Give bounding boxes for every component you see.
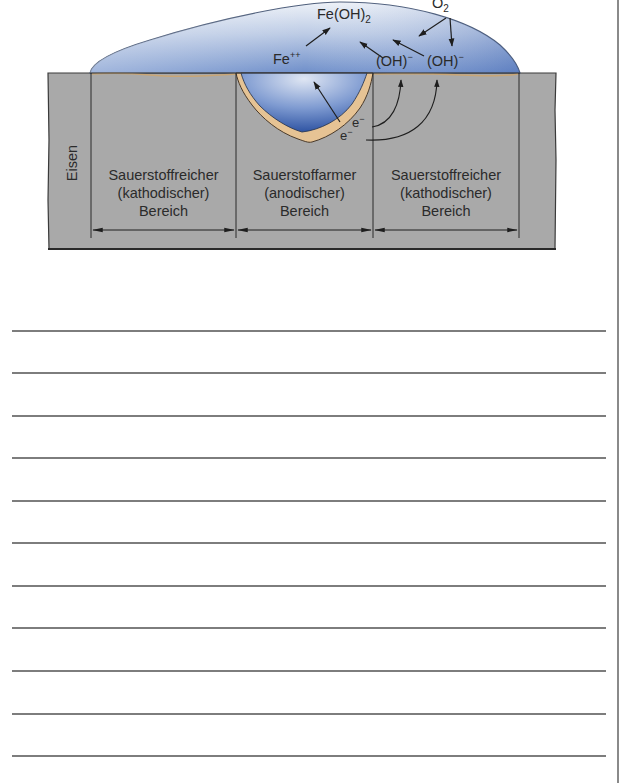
label-oxygen: O2 — [432, 0, 449, 14]
region-label-cathodic-left: Sauerstoffreicher (kathodischer) Bereich — [91, 166, 236, 220]
answer-line-5[interactable] — [12, 500, 606, 502]
answer-line-4[interactable] — [12, 457, 606, 459]
region-label-cathodic-right: Sauerstoffreicher (kathodischer) Bereich — [373, 166, 519, 220]
answer-line-6[interactable] — [12, 542, 606, 544]
label-eisen: Eisen — [64, 140, 82, 186]
region-label-anodic: Sauerstoffarmer (anodischer) Bereich — [236, 166, 373, 220]
label-hydroxide-1: (OH)− — [376, 52, 413, 69]
label-fe-oh-2: Fe(OH)2 — [317, 6, 371, 25]
answer-line-7[interactable] — [12, 585, 606, 587]
label-hydroxide-2: (OH)− — [427, 52, 464, 69]
corrosion-diagram: Fe(OH)2 Fe++ O2 (OH)− (OH)− e− e− Eisen … — [0, 0, 621, 260]
answer-line-3[interactable] — [12, 415, 606, 417]
answer-line-11[interactable] — [12, 755, 606, 757]
corrosion-illustration — [0, 0, 621, 260]
answer-line-9[interactable] — [12, 670, 606, 672]
answer-line-2[interactable] — [12, 372, 606, 374]
label-fe-ion: Fe++ — [273, 50, 300, 67]
label-electron-2: e− — [340, 127, 353, 143]
label-electron-1: e− — [352, 114, 365, 130]
answer-line-10[interactable] — [12, 713, 606, 715]
answer-line-1[interactable] — [12, 330, 606, 332]
answer-line-8[interactable] — [12, 627, 606, 629]
